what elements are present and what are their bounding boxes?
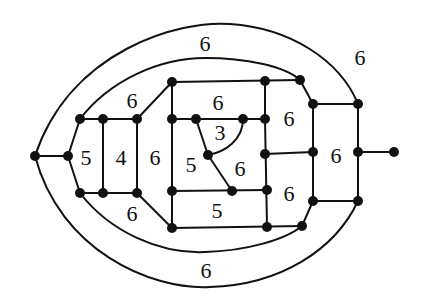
- edge: [172, 80, 300, 82]
- graph-svg: 6665466356666566: [0, 0, 421, 303]
- vertex-dot: [260, 76, 270, 86]
- edge: [137, 82, 172, 119]
- face-label: 6: [213, 90, 224, 115]
- vertex-dot: [203, 150, 213, 160]
- edge: [208, 155, 232, 191]
- face-labels: 6665466356666566: [81, 31, 366, 283]
- face-label: 6: [235, 156, 246, 181]
- edge: [172, 226, 302, 228]
- vertex-dot: [353, 99, 363, 109]
- vertex-dot: [167, 114, 177, 124]
- vertex-dot: [238, 114, 248, 124]
- vertex-dot: [132, 114, 142, 124]
- face-label: 6: [150, 145, 161, 170]
- edge: [196, 119, 208, 155]
- vertex-dot: [389, 147, 399, 157]
- vertex-dot: [132, 188, 142, 198]
- vertex-dot: [227, 186, 237, 196]
- vertex-dot: [353, 196, 363, 206]
- face-label: 6: [284, 106, 295, 131]
- vertex-dot: [260, 149, 270, 159]
- vertex-dot: [75, 114, 85, 124]
- face-label: 5: [186, 152, 197, 177]
- vertex-dot: [308, 196, 318, 206]
- inner-top-arc: [80, 58, 300, 119]
- face-label: 5: [81, 145, 92, 170]
- face-label: 6: [127, 201, 138, 226]
- vertex-dot: [75, 188, 85, 198]
- edge: [137, 193, 172, 228]
- outer-bottom-arc: [35, 156, 358, 287]
- face-label: 5: [212, 198, 223, 223]
- vertex-dot: [30, 151, 40, 161]
- edge: [172, 190, 267, 191]
- edge: [265, 152, 313, 154]
- vertex-dot: [98, 114, 108, 124]
- vertex-dot: [260, 114, 270, 124]
- vertex-dot: [98, 188, 108, 198]
- vertex-dot: [295, 75, 305, 85]
- edge: [68, 119, 80, 156]
- face-label: 4: [116, 145, 127, 170]
- vertex-dot: [308, 99, 318, 109]
- vertex-dot: [191, 114, 201, 124]
- face-label: 6: [331, 143, 342, 168]
- outer-top-arc: [35, 24, 358, 156]
- vertex-dot: [353, 147, 363, 157]
- vertex-dot: [262, 222, 272, 232]
- vertex-dot: [167, 223, 177, 233]
- vertex-dot: [167, 77, 177, 87]
- face-label: 3: [215, 120, 226, 145]
- vertex-dot: [167, 186, 177, 196]
- face-label: 6: [284, 181, 295, 206]
- vertex-dot: [262, 185, 272, 195]
- face-label: 6: [127, 88, 138, 113]
- planar-graph-diagram: 6665466356666566: [0, 0, 421, 303]
- edge-curved: [208, 119, 243, 155]
- face-label: 6: [201, 258, 212, 283]
- face-label: 6: [355, 45, 366, 70]
- face-label: 6: [200, 31, 211, 56]
- vertex-dot: [308, 147, 318, 157]
- vertex-dot: [63, 151, 73, 161]
- vertex-dot: [297, 221, 307, 231]
- edge: [265, 119, 267, 227]
- edge: [68, 156, 80, 193]
